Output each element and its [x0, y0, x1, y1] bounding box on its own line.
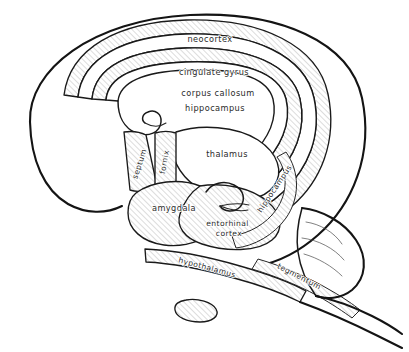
brain-diagram: neocortex cingulate gyrus corpus callosu… [0, 0, 409, 352]
label-amygdala: amygdala [152, 203, 196, 213]
structure-hippocampal-hook-left [118, 101, 166, 135]
label-thalamus: thalamus [206, 149, 248, 159]
label-corpus-callosum: corpus callosum [181, 88, 254, 98]
brain-diagram-canvas: neocortex cingulate gyrus corpus callosu… [0, 0, 409, 352]
label-cingulate-gyrus: cingulate gyrus [179, 67, 249, 77]
label-hippocampus-top: hippocampus [185, 103, 245, 113]
label-neocortex: neocortex [187, 34, 232, 44]
structure-pituitary [175, 299, 217, 322]
